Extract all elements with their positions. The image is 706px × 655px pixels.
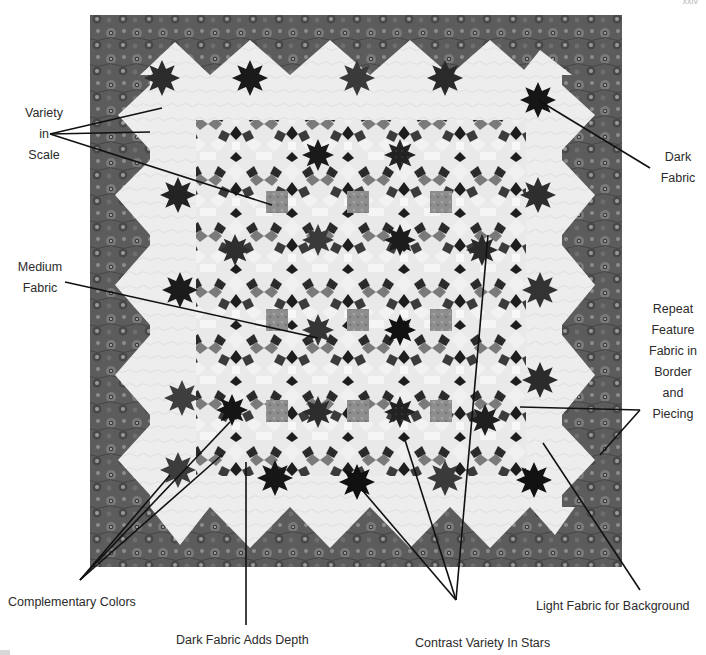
label-complementary-colors: Complementary Colors [8, 592, 136, 613]
label-light-fabric-background: Light Fabric for Background [536, 596, 690, 617]
page-edge-mark [0, 650, 10, 655]
label-dark-fabric-adds-depth: Dark Fabric Adds Depth [176, 630, 309, 651]
quilt-photo [0, 0, 706, 655]
label-dark-fabric: Dark Fabric [650, 147, 706, 189]
quilt-figure: xxiv Variety in Scale Dark Fabric Medium… [0, 0, 706, 655]
label-variety-in-scale: Variety in Scale [12, 103, 76, 166]
label-contrast-variety-in-stars: Contrast Variety In Stars [415, 633, 550, 654]
label-medium-fabric: Medium Fabric [10, 257, 70, 299]
page-number: xxiv [683, 0, 699, 6]
label-repeat-feature-fabric: Repeat Feature Fabric in Border and Piec… [640, 299, 706, 425]
